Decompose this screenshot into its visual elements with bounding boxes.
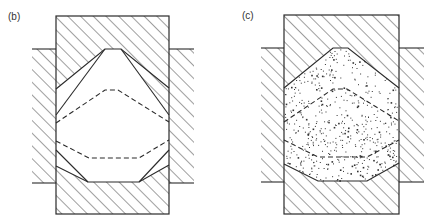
dashed-upper-profile-b <box>56 90 169 123</box>
panel-c: (c) <box>242 10 424 214</box>
left-die-bar-c <box>261 48 284 182</box>
upper-die-c <box>284 15 399 88</box>
panel-label-c: (c) <box>242 10 254 21</box>
dashed-lower-profile-c <box>284 140 399 157</box>
panel-b: (b) <box>8 11 194 214</box>
right-die-bar-c <box>399 48 424 182</box>
diagram-canvas: (b) (c) <box>0 0 437 224</box>
right-die-bar-b <box>169 49 194 183</box>
panel-label-b: (b) <box>8 11 20 22</box>
left-die-bar-b <box>32 49 56 183</box>
lower-die-b <box>56 165 169 214</box>
dashed-lower-profile-b <box>56 140 169 158</box>
dashed-upper-profile-c <box>284 89 399 122</box>
